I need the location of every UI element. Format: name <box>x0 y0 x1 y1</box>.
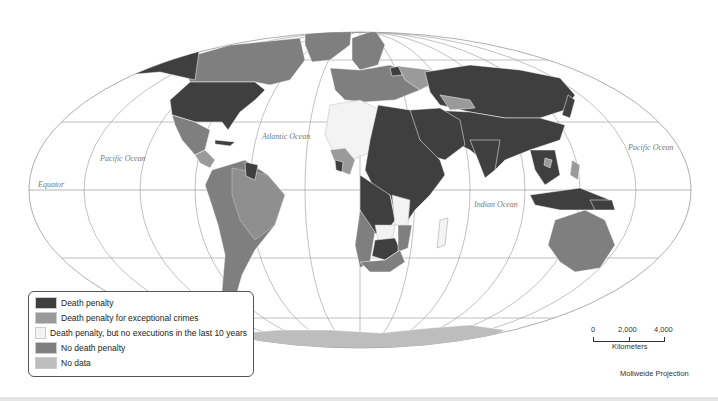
sierra-leone <box>335 160 343 172</box>
equator-label: Equator <box>37 180 65 189</box>
legend-label: Death penalty, but no executions in the … <box>50 328 247 338</box>
scale-unit: Kilometers <box>612 342 647 351</box>
canada <box>185 38 305 85</box>
ocean-label-pacific-west: Pacific Ocean <box>99 154 146 163</box>
legend-swatch <box>35 327 46 339</box>
projection-label: Mollweide Projection <box>620 369 689 378</box>
scale-tick-2000: 2,000 <box>618 325 637 334</box>
legend-item-no-executions: Death penalty, but no executions in the … <box>35 325 247 340</box>
legend-label: Death penalty <box>61 298 113 308</box>
zambia <box>375 225 395 240</box>
east-africa-light <box>392 195 410 225</box>
legend-label: No death penalty <box>61 343 125 353</box>
scale-tick-4000: 4,000 <box>654 325 673 334</box>
ocean-label-atlantic: Atlantic Ocean <box>261 132 310 141</box>
legend-swatch <box>35 297 57 309</box>
bottom-bar <box>0 397 718 401</box>
legend-item-no-death-penalty: No death penalty <box>35 340 247 355</box>
legend-item-no-data: No data <box>35 355 247 370</box>
legend-swatch <box>35 357 57 369</box>
map-legend: Death penalty Death penalty for exceptio… <box>28 291 254 377</box>
scale-bar: 0 2,000 4,000 Kilometers <box>585 325 685 355</box>
ocean-label-indian: Indian Ocean <box>473 200 518 209</box>
legend-swatch <box>35 342 57 354</box>
legend-label: Death penalty for exceptional crimes <box>61 313 199 323</box>
scale-tick-0: 0 <box>591 325 595 334</box>
legend-swatch <box>35 312 57 324</box>
legend-item-death-penalty: Death penalty <box>35 295 247 310</box>
legend-label: No data <box>61 358 91 368</box>
ocean-label-pacific-east: Pacific Ocean <box>627 143 674 152</box>
legend-item-exceptional-crimes: Death penalty for exceptional crimes <box>35 310 247 325</box>
